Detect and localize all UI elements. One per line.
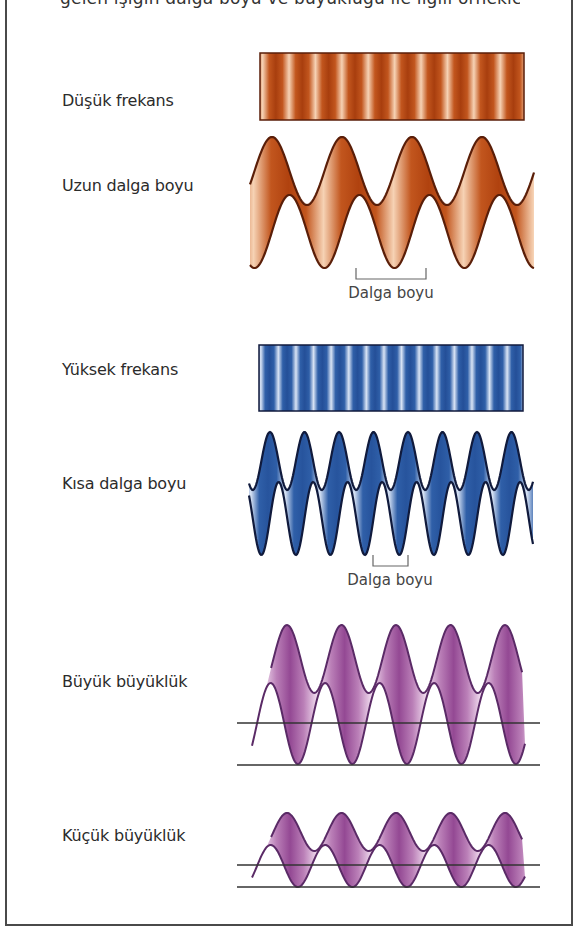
low-frequency-bar bbox=[260, 53, 524, 120]
high-frequency-bar bbox=[259, 345, 523, 411]
small-amplitude-wave bbox=[237, 813, 540, 887]
wave-illustrations bbox=[0, 0, 580, 942]
long-wavelength-ribbon bbox=[250, 137, 534, 268]
long-wavelength-bracket bbox=[356, 268, 426, 279]
short-wavelength-ribbon bbox=[249, 432, 533, 555]
large-amplitude-wave bbox=[237, 625, 540, 765]
short-wavelength-bracket bbox=[373, 555, 408, 566]
